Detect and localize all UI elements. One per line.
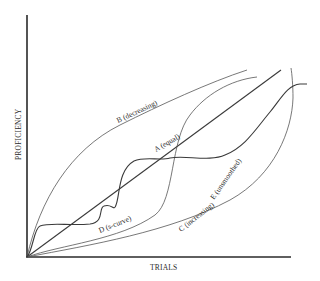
label-b-decreasing: B (decreasing) xyxy=(115,98,159,125)
label-c-increasing: C (increasing) xyxy=(177,200,217,234)
label-a-equal: A (equal) xyxy=(153,132,182,154)
label-e-unsmoothed: E (unsmoothed) xyxy=(208,156,243,201)
learning-curves-diagram: B (decreasing) A (equal) E (unsmoothed) … xyxy=(0,0,320,281)
label-d-s-curve: D (s-curve) xyxy=(97,213,133,234)
y-axis-label: PROFICIENCY xyxy=(14,108,23,160)
x-axis-label: TRIALS xyxy=(150,263,177,272)
curve-b-decreasing xyxy=(27,70,247,257)
curve-c-increasing xyxy=(27,68,293,257)
